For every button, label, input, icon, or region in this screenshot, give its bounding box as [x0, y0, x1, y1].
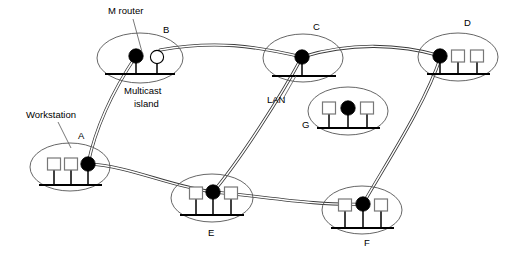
annotation-workstation: Workstation — [26, 109, 76, 148]
annotation-label: Workstation — [26, 109, 76, 120]
leader-line — [133, 19, 142, 52]
annotation-label: M router — [108, 5, 143, 16]
island-label-f: F — [364, 237, 370, 248]
tunnel-link-c-e — [213, 57, 302, 192]
workstation-icon — [190, 187, 203, 199]
annotation-multicast-island: Multicastisland — [124, 85, 162, 109]
island-label-g: G — [302, 119, 309, 130]
network-topology-canvas: BCDGAEF M routerMulticastislandWorkstati… — [0, 0, 518, 257]
workstation-icon — [225, 187, 238, 199]
workstation-icon — [361, 102, 374, 114]
tunnel-link-a-b — [88, 56, 136, 164]
workstation-icon — [65, 158, 78, 170]
annotation-m-router: M router — [108, 5, 143, 52]
island-b: B — [97, 24, 183, 83]
workstation-icon — [452, 50, 465, 62]
workstation-icon — [323, 102, 336, 114]
island-label-d: D — [464, 17, 471, 28]
multicast-router-icon — [81, 157, 95, 171]
workstation-icon — [48, 158, 61, 170]
multicast-router-icon — [129, 49, 143, 63]
tunnel-link-c-d — [302, 46, 441, 57]
multicast-router-icon — [295, 50, 309, 64]
island-g: G — [302, 87, 388, 135]
multicast-router-icon — [206, 185, 220, 199]
annotation-label: LAN — [267, 94, 286, 105]
workstation-icon — [471, 50, 484, 62]
island-a: A — [30, 130, 110, 191]
workstation-icon — [339, 199, 352, 211]
network-diagram: BCDGAEF M routerMulticastislandWorkstati… — [0, 0, 518, 257]
island-e: E — [171, 174, 253, 238]
tunnel-link-d-f — [363, 56, 441, 204]
annotations-layer: M routerMulticastislandWorkstationLAN — [26, 5, 296, 148]
workstation-icon — [375, 199, 388, 211]
island-f: F — [322, 186, 402, 248]
island-d: D — [418, 17, 498, 81]
multicast-router-icon — [341, 101, 355, 115]
multicast-router-icon — [433, 49, 447, 63]
island-label-b: B — [163, 24, 169, 35]
tunnel-links-layer — [88, 45, 441, 204]
multicast-router-icon — [356, 197, 370, 211]
island-label-c: C — [313, 21, 320, 32]
island-label-a: A — [78, 130, 85, 141]
non-multicast-router-icon — [150, 50, 163, 63]
annotation-label-line1: Multicast — [124, 85, 162, 96]
island-label-e: E — [208, 227, 214, 238]
annotation-label-line2: island — [134, 98, 159, 109]
